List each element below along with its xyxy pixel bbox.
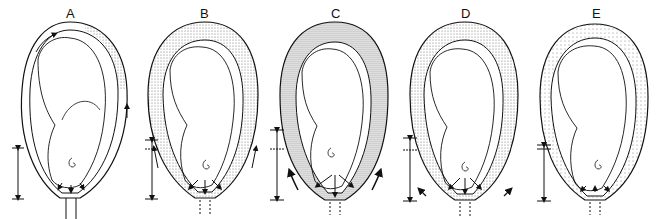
stage-label-c: C: [331, 6, 340, 21]
stage-label-e: E: [592, 6, 601, 21]
stage-label-a: A: [66, 6, 75, 21]
stage-label-d: D: [461, 6, 470, 21]
stage-c: [270, 22, 388, 215]
diagram-canvas: [0, 0, 661, 219]
stage-e: [537, 24, 648, 215]
stage-a: [12, 22, 127, 219]
stage-d: [403, 22, 518, 217]
stage-label-b: B: [200, 6, 209, 21]
stage-b: [145, 22, 258, 215]
